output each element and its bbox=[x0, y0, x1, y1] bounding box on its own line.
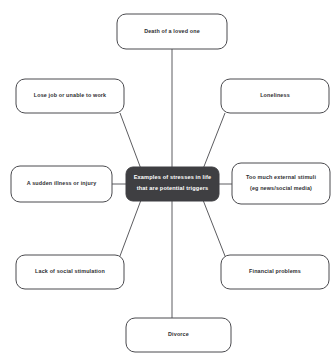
node-death-of-a-loved-one[interactable]: Death of a loved one bbox=[117, 14, 227, 49]
node-label-line1: Divorce bbox=[168, 331, 189, 337]
node-label-line1: Death of a loved one bbox=[144, 28, 200, 34]
node-label-line1: Financial problems bbox=[249, 268, 301, 274]
center-node-box[interactable] bbox=[126, 167, 219, 201]
mindmap-canvas: Death of a loved one Lose job or unable … bbox=[0, 0, 336, 363]
node-label-line1: Lack of social stimulation bbox=[35, 268, 105, 274]
node-label-line2: (eg news/social media) bbox=[250, 185, 312, 191]
center-node-label-line2: that are potential triggers bbox=[137, 185, 209, 191]
connector-to-financial-problems bbox=[203, 200, 225, 256]
connector-to-lack-of-social-stimulation bbox=[120, 200, 141, 256]
node-lose-job-or-unable-to-work[interactable]: Lose job or unable to work bbox=[16, 79, 124, 113]
node-too-much-external-stimuli[interactable]: Too much external stimuli (eg news/socia… bbox=[232, 163, 330, 204]
mindmap-diagram: Death of a loved one Lose job or unable … bbox=[0, 0, 336, 363]
node-label-line1: Lose job or unable to work bbox=[34, 92, 107, 98]
node-loneliness[interactable]: Loneliness bbox=[221, 79, 329, 113]
node-lack-of-social-stimulation[interactable]: Lack of social stimulation bbox=[16, 255, 124, 289]
connector-to-loneliness bbox=[203, 113, 225, 169]
node-a-sudden-illness-or-injury[interactable]: A sudden illness or injury bbox=[11, 166, 112, 202]
connector-to-lose-job-or-unable-to-work bbox=[120, 113, 141, 169]
node-divorce[interactable]: Divorce bbox=[126, 318, 231, 352]
node-label-line1: Too much external stimuli bbox=[246, 174, 316, 180]
node-label-line1: A sudden illness or injury bbox=[27, 180, 97, 186]
node-box[interactable] bbox=[232, 163, 330, 204]
node-label-line1: Loneliness bbox=[260, 92, 290, 98]
node-center[interactable]: Examples of stresses in life that are po… bbox=[126, 167, 219, 201]
center-node-label-line1: Examples of stresses in life bbox=[134, 174, 212, 180]
node-financial-problems[interactable]: Financial problems bbox=[221, 255, 329, 289]
